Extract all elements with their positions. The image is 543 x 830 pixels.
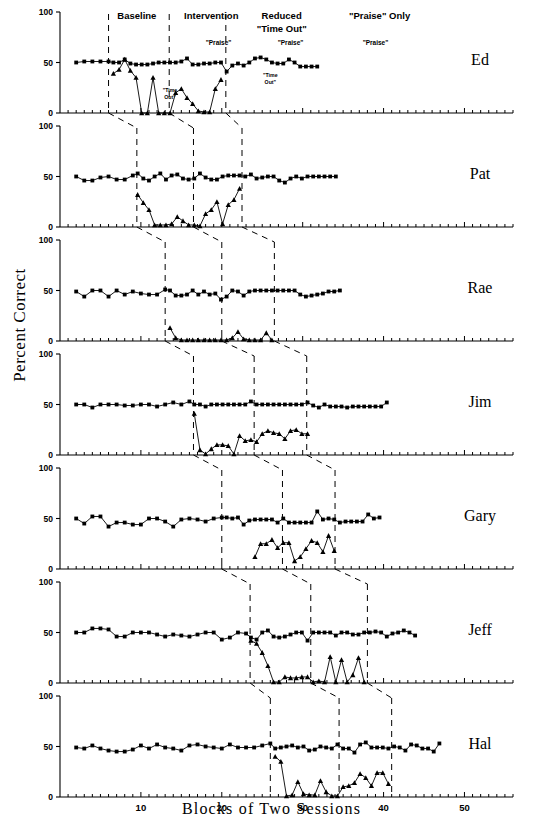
- data-point-square: [253, 57, 257, 61]
- data-point-square: [408, 631, 412, 635]
- data-point-square: [306, 639, 310, 643]
- data-point-square: [266, 175, 270, 179]
- data-point-square: [362, 405, 366, 409]
- data-point-square: [307, 749, 311, 753]
- data-point-square: [334, 634, 338, 638]
- data-point-square: [170, 174, 174, 178]
- data-point-square: [344, 520, 348, 524]
- panel-hal: 0501001020304050Hal: [39, 683, 513, 813]
- figure-root: Percent Correct Blocks of Two Sessions 0…: [0, 0, 543, 830]
- data-point-square: [220, 638, 224, 642]
- subject-label-pat: Pat: [470, 165, 491, 182]
- data-point-triangle: [282, 674, 287, 679]
- data-point-square: [196, 293, 200, 297]
- subject-label-hal: Hal: [468, 735, 492, 752]
- data-point-square: [115, 289, 119, 293]
- data-point-square: [107, 175, 111, 179]
- data-point-square: [221, 403, 225, 407]
- data-point-square: [294, 403, 298, 407]
- data-point-square: [336, 743, 340, 747]
- data-point-square: [155, 517, 159, 521]
- y-tick-label: 100: [39, 7, 53, 17]
- data-point-square: [277, 179, 281, 183]
- data-point-square: [281, 517, 285, 521]
- series-line-triangles: [275, 757, 388, 796]
- data-point-square: [334, 175, 338, 179]
- data-point-square: [413, 634, 417, 638]
- data-point-square: [277, 403, 281, 407]
- data-point-square: [304, 295, 308, 299]
- data-point-square: [196, 743, 200, 747]
- data-point-triangle: [324, 789, 329, 794]
- data-point-square: [323, 175, 327, 179]
- data-point-square: [398, 746, 402, 750]
- data-point-square: [198, 403, 202, 407]
- data-point-square: [155, 405, 159, 409]
- data-point-triangle: [254, 641, 259, 646]
- data-point-triangle: [184, 95, 189, 100]
- data-point-square: [90, 289, 94, 293]
- data-point-square: [255, 177, 259, 181]
- data-point-square: [115, 403, 119, 407]
- data-point-square: [158, 172, 162, 176]
- data-point-square: [289, 177, 293, 181]
- data-point-square: [259, 289, 263, 293]
- data-point-square: [298, 65, 302, 69]
- data-point-square: [155, 633, 159, 637]
- data-point-square: [82, 179, 86, 183]
- phase-header-label: "Time Out": [257, 23, 307, 34]
- data-point-square: [230, 64, 234, 68]
- data-point-square: [232, 403, 236, 407]
- data-point-triangle: [214, 199, 219, 204]
- data-point-square: [270, 518, 274, 522]
- data-point-square: [366, 513, 370, 517]
- data-point-square: [171, 401, 175, 405]
- data-point-square: [311, 404, 315, 408]
- y-tick-label: 50: [44, 400, 54, 410]
- data-point-square: [340, 405, 344, 409]
- data-point-square: [107, 628, 111, 632]
- phase-header-label: Intervention: [184, 10, 239, 21]
- data-point-square: [191, 63, 195, 67]
- data-point-square: [90, 60, 94, 64]
- data-point-square: [364, 741, 368, 745]
- phase-connector-line: [274, 341, 306, 356]
- data-point-square: [188, 517, 192, 521]
- phase-connector-line: [165, 341, 193, 356]
- data-point-square: [260, 744, 264, 748]
- data-point-triangle: [116, 67, 121, 72]
- data-point-square: [272, 635, 276, 639]
- data-point-square: [185, 57, 189, 61]
- data-point-square: [345, 406, 349, 410]
- data-point-square: [236, 290, 240, 294]
- data-point-square: [328, 405, 332, 409]
- data-point-square: [181, 177, 185, 181]
- data-point-square: [283, 635, 287, 639]
- phase-sublabel: "Praise": [278, 39, 304, 46]
- data-point-square: [283, 181, 287, 185]
- y-tick-label: 100: [39, 463, 53, 473]
- data-point-triangle: [326, 533, 331, 538]
- data-point-square: [319, 745, 323, 749]
- data-point-triangle: [350, 672, 355, 677]
- data-point-square: [163, 520, 167, 524]
- data-point-triangle: [218, 77, 223, 82]
- data-point-square: [202, 62, 206, 66]
- data-point-triangle: [192, 411, 197, 416]
- data-point-square: [153, 175, 157, 179]
- data-point-square: [244, 632, 248, 636]
- data-point-square: [285, 745, 289, 749]
- data-point-square: [136, 172, 140, 176]
- data-point-square: [306, 401, 310, 405]
- data-point-square: [155, 293, 159, 297]
- data-point-square: [327, 517, 331, 521]
- phase-sublabel: "Time: [163, 87, 178, 93]
- data-point-square: [82, 631, 86, 635]
- data-point-square: [351, 405, 355, 409]
- data-point-square: [293, 521, 297, 525]
- data-point-square: [147, 517, 151, 521]
- data-point-triangle: [292, 558, 297, 563]
- data-point-square: [204, 631, 208, 635]
- data-point-square: [313, 748, 317, 752]
- data-point-square: [155, 743, 159, 747]
